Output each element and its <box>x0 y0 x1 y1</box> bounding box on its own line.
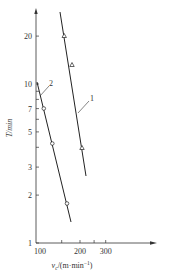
y-tick-label-2: 2 <box>28 191 32 200</box>
circle-marker-icon <box>42 107 46 111</box>
x-tick-label-100: 100 <box>34 247 46 256</box>
triangle-marker-icon <box>80 146 84 150</box>
y-tick-label-20: 20 <box>24 32 32 41</box>
y-ticks <box>36 36 39 243</box>
y-tick-label-10: 10 <box>24 80 32 89</box>
x-axis-arrow-icon <box>150 241 157 244</box>
y-axis-title: T/min <box>5 119 14 138</box>
circle-marker-icon <box>65 202 69 206</box>
y-axis-arrow-icon <box>34 8 37 14</box>
x-axis-title-unit: /(m·min <box>58 261 84 270</box>
x-axis-title-close: ) <box>90 261 93 270</box>
tool-life-chart: 1 2 3 5 7 10 20 100 200 300 T/min vc/(m·… <box>0 0 170 279</box>
series-2-label: 2 <box>49 79 53 88</box>
triangle-marker-icon <box>62 34 66 38</box>
y-tick-label-5: 5 <box>28 128 32 137</box>
series-2-leader <box>40 86 49 96</box>
x-tick-label-200: 200 <box>74 247 86 256</box>
series-2-line <box>37 82 71 222</box>
circle-marker-icon <box>51 142 55 146</box>
x-ticks <box>62 240 106 243</box>
x-axis-title: vc/(m·min−1) <box>52 260 93 271</box>
y-tick-label-1: 1 <box>28 239 32 248</box>
x-tick-label-300: 300 <box>100 247 112 256</box>
triangle-marker-icon <box>70 63 74 67</box>
y-tick-label-7: 7 <box>28 105 32 114</box>
series-1-leader <box>78 101 89 113</box>
series-1-label: 1 <box>90 94 94 103</box>
y-tick-label-3: 3 <box>28 163 32 172</box>
